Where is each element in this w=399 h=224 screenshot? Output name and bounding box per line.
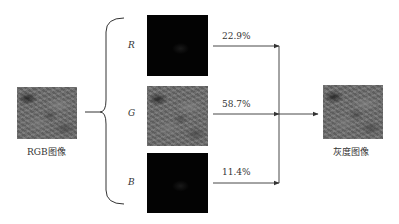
channel-label-b: B	[128, 177, 135, 187]
blue-channel-image	[147, 153, 208, 213]
weight-r: 22.9%	[222, 31, 251, 41]
channel-label-g: G	[128, 108, 135, 118]
green-channel-image	[147, 86, 208, 146]
weight-b: 11.4%	[222, 167, 251, 177]
grayscale-image-label: 灰度图像	[333, 145, 369, 158]
red-channel-image	[147, 15, 208, 76]
weight-g: 58.7%	[222, 99, 251, 109]
channel-label-r: R	[128, 40, 135, 50]
channel-brace	[100, 18, 124, 204]
grayscale-image	[323, 85, 383, 139]
